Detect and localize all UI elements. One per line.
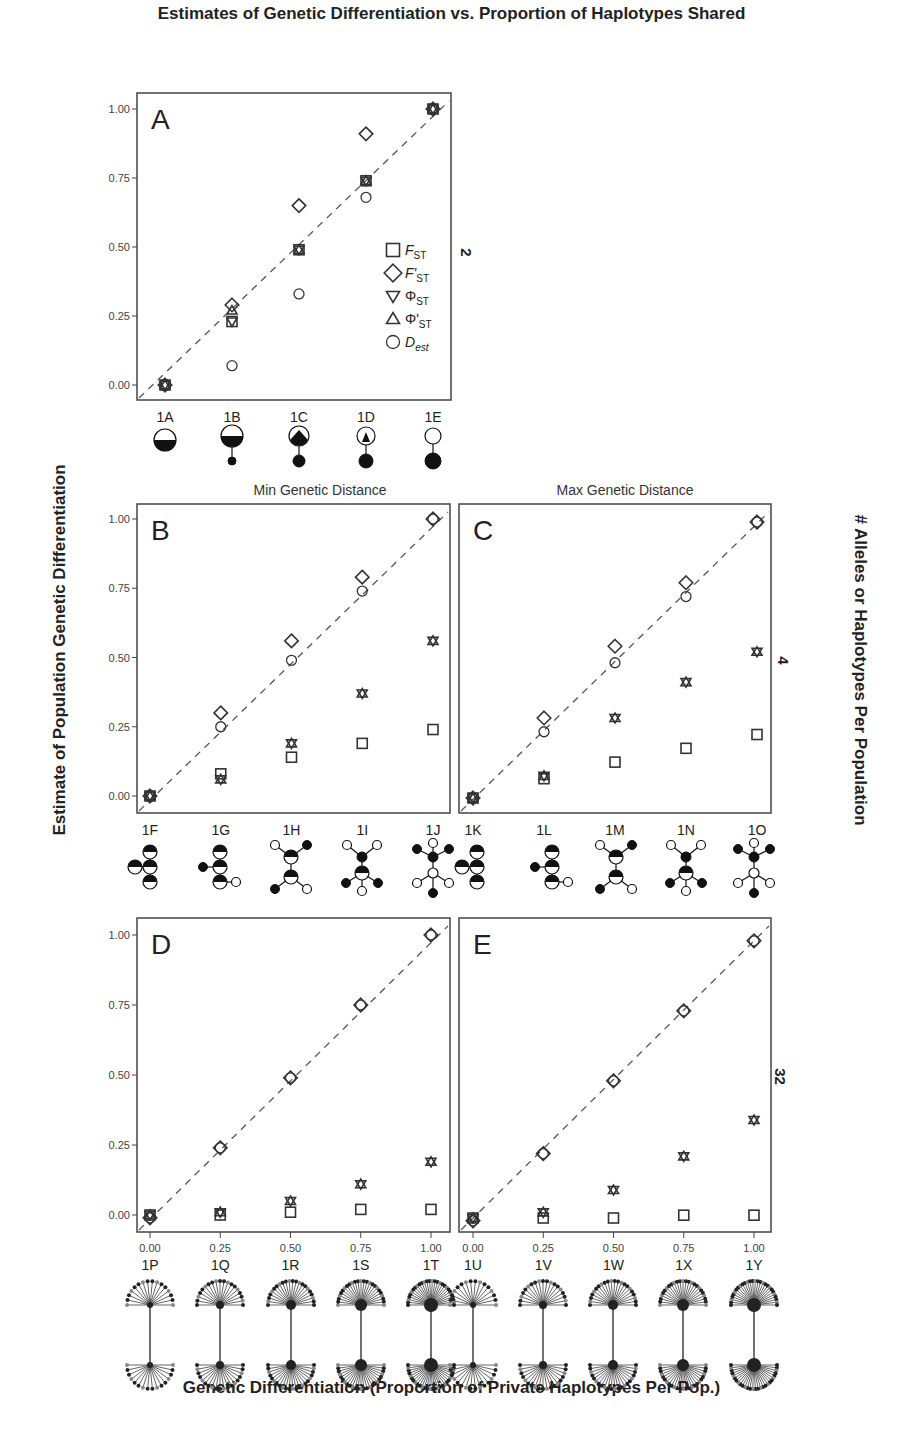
haplotype-node (634, 1299, 638, 1303)
legend-subscript: est (415, 342, 430, 353)
haplotype-node (616, 1386, 620, 1390)
legend-subscript: ST (419, 319, 432, 330)
haplotype-node (214, 1279, 218, 1283)
haplotype-node (588, 1299, 592, 1303)
haplotype-node (734, 879, 743, 888)
haplotype-node (634, 1367, 638, 1371)
haplotype-fill (213, 845, 227, 852)
circle-marker (387, 336, 400, 349)
haplotype-node (518, 1367, 522, 1371)
haplotype-node (456, 1285, 460, 1289)
haplotype-node (163, 1381, 167, 1385)
haplotype-fill (545, 845, 559, 852)
chart-canvas: 0.000.250.500.751.00A1A1B1C1D1E0.000.250… (0, 0, 903, 1453)
x-tick-label: 1.00 (420, 1242, 441, 1254)
haplotype-node (667, 841, 676, 850)
haplotype-node (267, 1370, 271, 1374)
haplotype-node (127, 1293, 131, 1297)
haplotype-node (766, 845, 775, 854)
circle-marker (539, 727, 549, 737)
legend-subscript: ST (414, 250, 427, 261)
networks-row-a (154, 425, 441, 469)
haplotype-node (150, 1279, 154, 1283)
haplotype-fill (213, 860, 227, 867)
haplotype-node (218, 1279, 222, 1283)
haplotype-node (682, 887, 691, 896)
haplotype-node (553, 1282, 557, 1286)
case-label: 1C (290, 409, 308, 425)
haplotype-node (526, 1381, 530, 1385)
haplotype-node (125, 1303, 129, 1307)
hub-node (147, 1362, 153, 1368)
haplotype-node (169, 1293, 173, 1297)
haplotype-node (373, 841, 382, 850)
y-tick-label: 0.50 (109, 652, 130, 664)
legend-label: F'ST (405, 265, 429, 284)
haplotype-node (200, 1288, 204, 1292)
square-marker (357, 738, 367, 748)
haplotype-node (530, 1282, 534, 1286)
y-tick-label: 0.75 (109, 172, 130, 184)
haplotype-node (357, 852, 367, 862)
hub-node (355, 1359, 367, 1371)
y-tick-label: 0.00 (109, 379, 130, 391)
case-label: 1M (605, 822, 624, 838)
haplotype-node (425, 453, 441, 469)
haplotype-node (230, 1282, 234, 1286)
square-marker (426, 1204, 436, 1214)
haplotype-node (226, 1386, 230, 1390)
panel-b: 0.000.250.500.751.00B1F1G1H1I1J (109, 504, 450, 838)
haplotype-node (240, 1295, 244, 1299)
haplotype-node (133, 1285, 137, 1289)
haplotype-fill (213, 875, 227, 882)
haplotype-node (634, 1303, 638, 1307)
haplotype-node (464, 1386, 468, 1390)
diamond-marker (608, 639, 622, 653)
haplotype-node (541, 1387, 545, 1391)
case-label: 1O (748, 822, 767, 838)
haplotype-node (413, 879, 422, 888)
y-tick-label: 1.00 (109, 929, 130, 941)
case-label: 1A (156, 409, 174, 425)
hub-node (424, 1298, 438, 1312)
square-marker (287, 752, 297, 762)
haplotype-node (490, 1377, 494, 1381)
haplotype-node (519, 1371, 523, 1375)
haplotype-node (469, 1279, 473, 1283)
haplotype-node (200, 1378, 204, 1382)
panel-letter: C (473, 515, 493, 546)
haplotype-node (406, 1363, 410, 1367)
haplotype-node (241, 1303, 245, 1307)
haplotype-node (196, 1295, 200, 1299)
haplotype-fill (355, 866, 369, 873)
case-label: 1E (424, 409, 441, 425)
haplotype-node (222, 1387, 226, 1391)
haplotype-node (486, 1381, 490, 1385)
square-marker (749, 1210, 759, 1220)
haplotype-node (287, 1387, 291, 1391)
triangle-down-marker (387, 291, 400, 302)
haplotype-node (233, 1285, 237, 1289)
haplotype-node (445, 845, 454, 854)
haplotype-node (240, 1371, 244, 1375)
haplotype-node (456, 1381, 460, 1385)
haplotype-node (238, 1375, 242, 1379)
hub-node (424, 1358, 438, 1372)
haplotype-node (233, 1381, 237, 1385)
haplotype-node (160, 1282, 164, 1286)
haplotype-node (271, 885, 280, 894)
haplotype-node (492, 1293, 496, 1297)
networks-row-c (455, 839, 775, 898)
case-label: 1Q (211, 1257, 230, 1273)
y-tick-label: 0.75 (109, 582, 130, 594)
haplotype-node (203, 1381, 207, 1385)
haplotype-node (160, 1384, 164, 1388)
square-marker (610, 757, 620, 767)
haplotype-node (537, 1387, 541, 1391)
haplotype-node (294, 1386, 298, 1390)
haplotype-node (450, 1293, 454, 1297)
haplotype-node (609, 1279, 613, 1283)
haplotype-node (775, 1303, 779, 1307)
haplotype-node (358, 887, 367, 896)
haplotype-node (146, 1279, 150, 1283)
